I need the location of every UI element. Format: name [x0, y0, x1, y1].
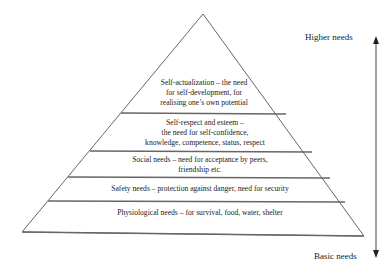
level-safety: Safety needs – protection against danger…: [70, 184, 330, 194]
level-text-line: for self-development, for: [148, 88, 260, 98]
level-text-line: Self-respect and esteem –: [120, 118, 290, 128]
arrow-up-icon: [373, 36, 379, 44]
level-physiological: Physiological needs – for survival, food…: [70, 208, 330, 218]
level-text-line: friendship etc.: [100, 165, 300, 175]
band-divider-1: [121, 113, 286, 114]
level-text-line: Physiological needs – for survival, food…: [70, 208, 330, 218]
level-social: Social needs – need for acceptance by pe…: [100, 155, 300, 175]
level-text-line: the need for self-confidence,: [120, 128, 290, 138]
higher-needs-label: Higher needs: [305, 32, 353, 42]
level-text-line: realising one’s own potential: [148, 98, 260, 108]
arrow-down-icon: [373, 250, 379, 258]
basic-needs-label: Basic needs: [314, 251, 357, 261]
level-self-respect: Self-respect and esteem – the need for s…: [120, 118, 290, 148]
level-text-line: knowledge, competence, status, respect: [120, 138, 290, 148]
level-text-line: Safety needs – protection against danger…: [70, 184, 330, 194]
band-divider-2: [90, 151, 312, 152]
level-self-actualization: Self-actualization – the need for self-d…: [148, 78, 260, 108]
level-text-line: Self-actualization – the need: [148, 78, 260, 88]
base-line: [22, 232, 364, 236]
level-text-line: Social needs – need for acceptance by pe…: [100, 155, 300, 165]
band-divider-4: [48, 201, 345, 202]
band-divider-3: [68, 177, 330, 178]
